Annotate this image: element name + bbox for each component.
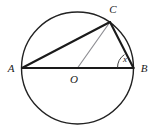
point-label-C: C [109,4,116,15]
point-label-A: A [8,63,15,74]
geometry-canvas [0,0,155,135]
point-label-B: B [141,63,148,74]
geometry-figure: A B C O x [0,0,155,135]
segment-OC [78,22,111,68]
segment-AC [22,22,110,68]
angle-label-x: x [123,55,127,64]
point-label-O: O [70,74,78,85]
segment-CB [110,22,134,68]
